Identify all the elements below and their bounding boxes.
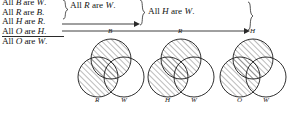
brace-premises-1-2: [62, 0, 70, 21]
venn-diagram-2-graphic: [146, 33, 216, 105]
venn-diagram-3: H O W: [218, 33, 288, 109]
venn-diagram-1: B R W: [76, 33, 146, 109]
venn-2-label-top: R: [178, 28, 182, 35]
venn-diagram-3-graphic: [218, 33, 288, 105]
venn-1-circle-W-outline: [104, 57, 144, 97]
intermediate-conclusion-1: All R are W.: [70, 1, 115, 11]
intermediate-conclusion-2: All H are W.: [148, 7, 194, 17]
venn-1-label-top: B: [108, 28, 112, 35]
venn-3-label-bottom-left: O: [237, 97, 242, 104]
final-conclusion-line: All O are W.: [2, 37, 64, 47]
venn-diagram-1-graphic: [76, 33, 146, 105]
premise-list: All B are W. All R are B. All H are R. A…: [2, 0, 64, 47]
figure-canvas: All B are W. All R are B. All H are R. A…: [0, 0, 298, 115]
venn-1-label-bottom-left: R: [95, 97, 99, 104]
venn-1-label-bottom-right: W: [121, 97, 127, 104]
venn-2-label-bottom-right: W: [191, 97, 197, 104]
venn-2-label-bottom-left: H: [165, 97, 170, 104]
venn-diagram-2: R H W: [146, 33, 216, 109]
venn-3-label-bottom-right: W: [263, 97, 269, 104]
venn-3-label-top: H: [250, 28, 255, 35]
